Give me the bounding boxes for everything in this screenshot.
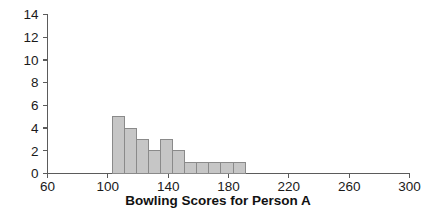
x-axis-label: Bowling Scores for Person A — [125, 193, 311, 208]
y-tick-label: 14 — [23, 7, 39, 22]
histogram-bar — [197, 162, 209, 173]
histogram-bar — [149, 151, 161, 174]
histogram-bar — [233, 162, 245, 173]
x-axis-ticks: 60100140180220260300 — [40, 173, 421, 194]
x-tick-label: 100 — [97, 179, 120, 194]
histogram-bar — [185, 162, 197, 173]
x-tick-label: 180 — [217, 179, 240, 194]
x-tick-label: 260 — [338, 179, 361, 194]
x-tick-label: 220 — [278, 179, 301, 194]
histogram-bar — [124, 128, 136, 173]
histogram-bar — [112, 117, 124, 174]
y-axis-ticks: 02468101214 — [23, 7, 48, 181]
histogram-bar — [221, 162, 233, 173]
y-tick-label: 6 — [31, 98, 39, 113]
chart-canvas: 02468101214 60100140180220260300 Bowling… — [0, 0, 436, 218]
y-tick-label: 2 — [31, 144, 39, 159]
y-tick-label: 4 — [31, 121, 39, 136]
histogram-bars — [112, 117, 245, 174]
x-tick-label: 60 — [40, 179, 55, 194]
y-tick-label: 8 — [31, 75, 39, 90]
y-tick-label: 0 — [31, 166, 39, 181]
histogram-bar — [161, 139, 173, 173]
y-tick-label: 12 — [23, 30, 38, 45]
histogram-figure: 02468101214 60100140180220260300 Bowling… — [0, 0, 436, 218]
y-tick-label: 10 — [23, 53, 38, 68]
histogram-bar — [173, 151, 185, 174]
x-tick-label: 140 — [157, 179, 180, 194]
histogram-bar — [136, 139, 148, 173]
x-tick-label: 300 — [398, 179, 421, 194]
histogram-bar — [209, 162, 221, 173]
